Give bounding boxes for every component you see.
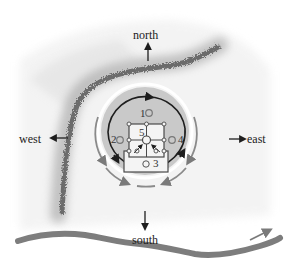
marker-label-1: 1 (140, 108, 146, 119)
label-west: west (19, 133, 41, 145)
label-north: north (133, 29, 158, 41)
marker-label-4: 4 (178, 134, 184, 145)
marker-label-3: 3 (153, 158, 159, 169)
marker-label-5: 5 (139, 127, 145, 138)
site-diagram: north south west east 1 2 3 4 5 (0, 0, 290, 274)
label-south: south (132, 234, 158, 246)
temple-plan (124, 122, 168, 172)
label-east: east (247, 133, 266, 145)
marker-label-2: 2 (111, 134, 117, 145)
